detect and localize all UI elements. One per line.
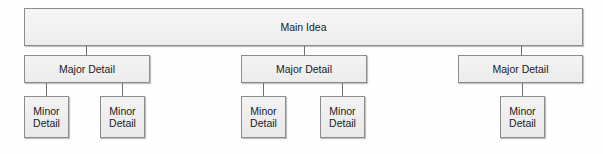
connector-major-3-to-minor-1 bbox=[522, 83, 523, 96]
node-major-detail-1[interactable]: Major Detail bbox=[24, 55, 150, 83]
connector-major-2-to-minor-1 bbox=[263, 83, 264, 96]
connector-major-1-to-minor-1 bbox=[46, 83, 47, 96]
node-main-idea[interactable]: Main Idea bbox=[24, 8, 583, 46]
node-minor-detail-1-2[interactable]: Minor Detail bbox=[100, 96, 145, 138]
node-minor-detail-2-2[interactable]: Minor Detail bbox=[320, 96, 365, 138]
node-major-detail-2[interactable]: Major Detail bbox=[241, 55, 367, 83]
node-label-line2: Detail bbox=[509, 117, 536, 129]
diagram-canvas: Main Idea Major Detail Minor Detail Mino… bbox=[0, 0, 603, 154]
connector-root-to-major-1 bbox=[86, 46, 87, 55]
connector-major-1-to-minor-2 bbox=[122, 83, 123, 96]
node-label: Major Detail bbox=[59, 63, 115, 75]
node-label-line2: Detail bbox=[33, 117, 60, 129]
node-minor-detail-1-1[interactable]: Minor Detail bbox=[24, 96, 69, 138]
node-label-line1: Minor bbox=[33, 105, 59, 117]
node-label-line2: Detail bbox=[250, 117, 277, 129]
node-label-line1: Minor bbox=[329, 105, 355, 117]
node-label-line1: Minor bbox=[109, 105, 135, 117]
connector-root-to-major-3 bbox=[521, 46, 522, 55]
node-major-detail-3[interactable]: Major Detail bbox=[458, 55, 583, 83]
node-minor-detail-2-1[interactable]: Minor Detail bbox=[241, 96, 286, 138]
node-label: Main Idea bbox=[280, 21, 326, 33]
node-minor-detail-3-1[interactable]: Minor Detail bbox=[500, 96, 545, 138]
node-label-line1: Minor bbox=[250, 105, 276, 117]
node-label: Major Detail bbox=[492, 63, 548, 75]
connector-major-2-to-minor-2 bbox=[342, 83, 343, 96]
node-label: Major Detail bbox=[276, 63, 332, 75]
node-label-line1: Minor bbox=[509, 105, 535, 117]
connector-root-to-major-2 bbox=[304, 46, 305, 55]
node-label-line2: Detail bbox=[329, 117, 356, 129]
node-label-line2: Detail bbox=[109, 117, 136, 129]
